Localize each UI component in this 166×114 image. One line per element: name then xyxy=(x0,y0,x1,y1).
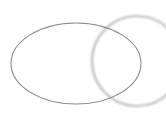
blurred-circle-shape xyxy=(92,16,166,106)
ellipse-shape xyxy=(11,23,141,104)
diagram-canvas xyxy=(0,0,166,114)
